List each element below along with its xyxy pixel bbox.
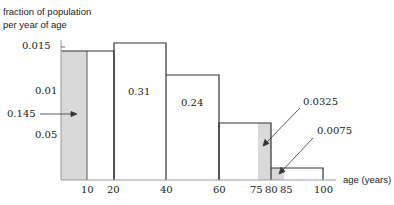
annotation-00075: 0.0075 [317,125,352,136]
y-tick-label-005: 0.05 [35,129,57,140]
annotation-0145: 0.145 [7,108,36,119]
x-tick-85: 85 [280,184,293,195]
y-tick-label-0015: 0.015 [22,40,51,51]
x-axis-label: age (years) [343,174,391,185]
x-tick-10: 10 [81,184,94,195]
y-axis-label-line2: per year of age [3,19,67,30]
x-tick-40: 40 [160,184,173,195]
x-tick-100: 100 [314,184,333,195]
x-tick-20: 20 [107,184,120,195]
annotation-024: 0.24 [181,97,203,108]
x-tick-75: 75 [250,184,263,195]
bar-40-60 [166,75,219,180]
x-tick-60: 60 [213,184,226,195]
y-tick-label-001: 0.01 [35,85,57,96]
shaded-region-75-80 [258,123,271,180]
arrow-0075 [282,138,313,171]
bar-20-40 [114,43,166,180]
annotation-031: 0.31 [128,86,150,97]
y-axis-label-line1: fraction of population [3,6,91,17]
x-tick-80: 80 [265,184,278,195]
annotation-00325: 0.0325 [303,96,338,107]
